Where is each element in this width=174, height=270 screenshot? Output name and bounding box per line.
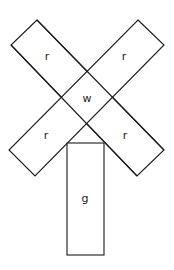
diagram-canvas: r r w r r g: [0, 0, 174, 270]
label-arm-bottom-right: r: [123, 129, 128, 142]
label-arm-bottom-left: r: [44, 129, 49, 142]
label-center: w: [83, 92, 92, 105]
label-arm-top-right: r: [122, 50, 127, 63]
label-stem: g: [82, 192, 89, 205]
label-arm-top-left: r: [45, 50, 50, 63]
